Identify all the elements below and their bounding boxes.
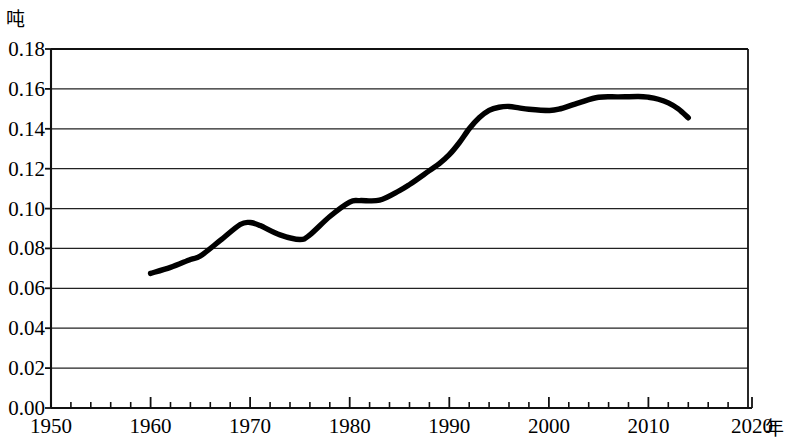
y-tick-label: 0.06 xyxy=(8,276,45,300)
x-tick-label: 1990 xyxy=(428,414,470,438)
y-tick-label: 0.14 xyxy=(8,117,45,141)
y-tick-label: 0.16 xyxy=(8,77,45,101)
x-tick-label: 1970 xyxy=(229,414,271,438)
y-tick-label: 0.04 xyxy=(8,316,45,340)
y-tick-label: 0.08 xyxy=(8,236,45,260)
gridlines xyxy=(51,89,748,368)
plot-frame xyxy=(51,49,752,408)
x-axis-ticks xyxy=(51,397,752,408)
line-chart: 吨 0.000.020.040.060.080.100.120.140.160.… xyxy=(0,0,804,439)
x-tick-label: 2000 xyxy=(528,414,570,438)
y-tick-label: 0.10 xyxy=(8,197,45,221)
x-axis-tick-labels: 19501960197019801990200020102020 xyxy=(30,414,773,438)
x-tick-label: 1980 xyxy=(329,414,371,438)
y-tick-label: 0.18 xyxy=(8,37,45,61)
y-tick-label: 0.02 xyxy=(8,356,45,380)
x-tick-label: 1960 xyxy=(130,414,172,438)
data-series-line xyxy=(151,96,689,273)
x-tick-label: 2010 xyxy=(627,414,669,438)
y-axis-unit-label: 吨 xyxy=(6,8,25,30)
x-axis-unit-label: 年 xyxy=(765,417,784,439)
y-tick-label: 0.12 xyxy=(8,157,45,181)
y-axis-ticks: 0.000.020.040.060.080.100.120.140.160.18 xyxy=(8,37,51,420)
chart-container: 吨 0.000.020.040.060.080.100.120.140.160.… xyxy=(0,0,804,439)
x-tick-label: 1950 xyxy=(30,414,72,438)
